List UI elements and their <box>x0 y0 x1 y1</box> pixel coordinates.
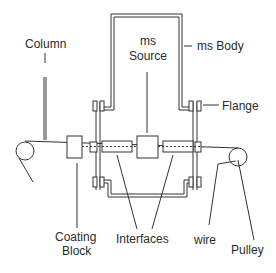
wire-coating-diagram: Column ms Source ms Body Flange Coating … <box>0 0 276 273</box>
label-flange: Flange <box>222 99 259 113</box>
label-ms-body: ms Body <box>197 39 244 53</box>
label-column: Column <box>25 37 66 51</box>
interface-left <box>82 141 137 152</box>
label-pulley: Pulley <box>231 243 264 257</box>
ms-source-box <box>137 136 158 158</box>
label-interfaces: Interfaces <box>116 232 169 246</box>
label-ms-source-1: ms <box>140 34 156 48</box>
column <box>44 77 46 140</box>
label-coating-block-2: Block <box>62 244 92 258</box>
left-pulley <box>16 142 34 182</box>
label-wire: wire <box>193 233 216 247</box>
interface-right <box>158 141 201 152</box>
label-coating-block-1: Coating <box>55 230 96 244</box>
right-pulley <box>229 148 247 166</box>
coating-block <box>67 136 82 158</box>
label-ms-source-2: Source <box>129 49 167 63</box>
